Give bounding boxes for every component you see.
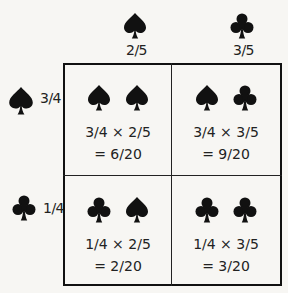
cell-spade-spade: 3/4 × 2/5 = 6/20: [64, 64, 172, 174]
spade-icon: [125, 196, 149, 224]
column-header-club-icon: [230, 12, 254, 40]
spade-icon: [87, 84, 111, 112]
cell-spade-club: 3/4 × 3/5 = 9/20: [172, 64, 280, 174]
club-icon: [233, 84, 257, 112]
cell-result: = 2/20: [64, 258, 172, 274]
row-header-club-icon: [12, 194, 36, 222]
cell-expression: 1/4 × 3/5: [172, 236, 280, 252]
club-icon: [195, 196, 219, 224]
column-header-spade-icon: [123, 12, 147, 40]
cell-expression: 3/4 × 3/5: [172, 124, 280, 140]
cell-club-club: 1/4 × 3/5 = 3/20: [172, 176, 280, 286]
cell-result: = 9/20: [172, 146, 280, 162]
column-probability-spade: 2/5: [126, 42, 147, 58]
cell-result: = 6/20: [64, 146, 172, 162]
row-probability-spade: 3/4: [40, 90, 61, 106]
row-header-spade-icon: [8, 86, 34, 116]
cell-expression: 3/4 × 2/5: [64, 124, 172, 140]
cell-result: = 3/20: [172, 258, 280, 274]
club-icon: [87, 196, 111, 224]
row-probability-club: 1/4: [43, 200, 64, 216]
cell-expression: 1/4 × 2/5: [64, 236, 172, 252]
cell-club-spade: 1/4 × 2/5 = 2/20: [64, 176, 172, 286]
club-icon: [233, 196, 257, 224]
column-probability-club: 3/5: [233, 42, 254, 58]
spade-icon: [195, 84, 219, 112]
spade-icon: [125, 84, 149, 112]
